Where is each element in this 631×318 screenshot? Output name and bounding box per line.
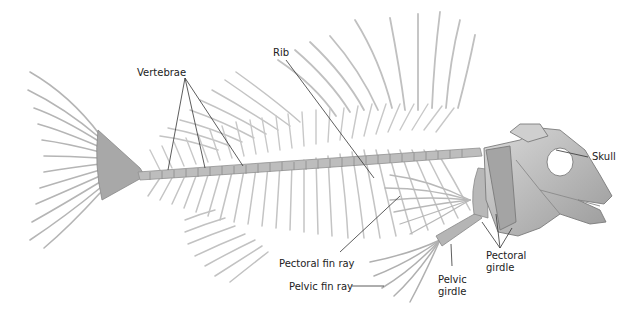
- caudal-peduncle: [97, 130, 145, 200]
- anal-fin-rays: [185, 210, 268, 282]
- label-pelvic-girdle-line2: girdle: [438, 286, 467, 298]
- dorsal-fin-spines: [278, 12, 475, 116]
- caudal-fin-rays: [28, 72, 100, 248]
- label-vertebrae: Vertebrae: [137, 67, 186, 79]
- pelvic-girdle: [436, 212, 482, 246]
- label-pectoral-girdle-line1: Pectoral: [486, 250, 526, 262]
- label-pelvic-girdle: Pelvic girdle: [438, 274, 467, 298]
- label-pectoral-girdle: Pectoral girdle: [486, 250, 526, 274]
- label-rib: Rib: [273, 47, 289, 59]
- pelvic-girdle-leader: [451, 244, 452, 266]
- pectoral-fin-ray-leader: [340, 196, 400, 252]
- label-pectoral-fin-ray: Pectoral fin ray: [279, 258, 355, 270]
- fish-skeleton-diagram: Vertebrae Rib Skull Pectoral fin ray Pec…: [0, 0, 631, 318]
- pelvic-fin-rays: [370, 240, 440, 302]
- skull: [484, 124, 612, 236]
- label-pelvic-fin-ray: Pelvic fin ray: [289, 281, 353, 293]
- skeleton-illustration: [0, 0, 631, 318]
- vertebrae-leader-2: [185, 78, 205, 168]
- label-skull: Skull: [592, 151, 616, 163]
- label-pectoral-girdle-line2: girdle: [486, 262, 526, 274]
- vertebrae-leader-1: [168, 78, 185, 170]
- label-pelvic-girdle-line1: Pelvic: [438, 274, 467, 286]
